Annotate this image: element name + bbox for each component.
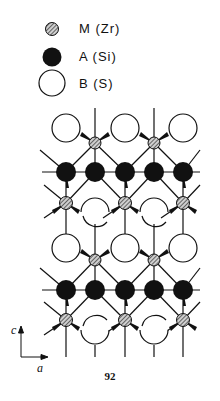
legend-label-a: A (Si) [79, 49, 117, 64]
legend-label-b: B (S) [79, 76, 114, 91]
axis-indicator [19, 326, 49, 360]
page-number: 92 [0, 370, 220, 382]
legend-m-icon [46, 23, 59, 36]
legend-symbols [39, 23, 65, 97]
legend-label-m: M (Zr) [79, 21, 120, 36]
legend-b-icon [39, 70, 65, 96]
c-axis-label: c [11, 323, 16, 338]
legend-a-icon [43, 48, 62, 67]
